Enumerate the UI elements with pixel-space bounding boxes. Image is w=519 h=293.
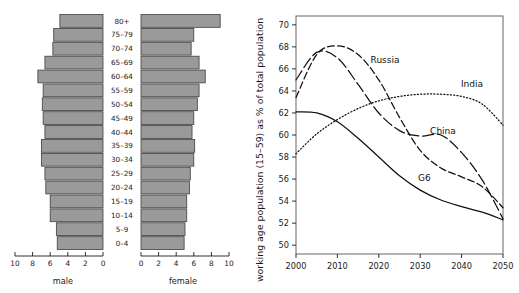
pyramid-age-group-label: 25–29 <box>111 169 133 178</box>
pyramid-age-group-label: 75–79 <box>111 30 133 39</box>
pyramid-bar-male <box>41 153 103 166</box>
working-age-line-chart-panel: working age population (15–59) as % of t… <box>250 0 519 293</box>
pyramid-age-group-label: 0–4 <box>116 239 129 248</box>
pyramid-bar-female <box>141 153 194 166</box>
x-tick-label: 2000 <box>286 261 307 271</box>
pyramid-age-group-label: 40–44 <box>111 128 133 137</box>
pyramid-bar-female <box>141 98 197 111</box>
pyramid-male-bars <box>38 15 103 250</box>
pyramid-female-tick-label: 8 <box>209 259 214 268</box>
y-tick-label: 52 <box>279 218 289 228</box>
pyramid-bar-female <box>141 181 189 194</box>
pyramid-bar-male <box>50 195 103 208</box>
pyramid-bar-male <box>56 223 103 236</box>
pyramid-bar-male <box>45 56 103 69</box>
pyramid-bar-male <box>43 112 103 125</box>
pyramid-age-group-label: 55–59 <box>111 86 133 95</box>
pyramid-male-tick-label: 10 <box>10 259 20 268</box>
pyramid-female-tick-label: 2 <box>156 259 161 268</box>
pyramid-bar-male <box>53 42 103 55</box>
pyramid-age-group-label: 20–24 <box>111 183 133 192</box>
series-line-china <box>296 51 503 219</box>
pyramid-bar-female <box>141 70 205 83</box>
pyramid-male-tick-label: 6 <box>48 259 53 268</box>
population-pyramid-svg: 0–45–910–1415–1920–2425–2930–3435–3940–4… <box>0 0 250 293</box>
population-pyramid-panel: 0–45–910–1415–1920–2425–2930–3435–3940–4… <box>0 0 250 293</box>
pyramid-bar-female <box>141 126 192 139</box>
pyramid-bar-female <box>141 139 195 152</box>
x-tick-label: 2010 <box>327 261 348 271</box>
pyramid-age-group-label: 30–34 <box>111 155 133 164</box>
y-tick-label: 56 <box>279 174 289 184</box>
pyramid-female-tick-label: 10 <box>224 259 234 268</box>
working-age-line-chart-svg: working age population (15–59) as % of t… <box>250 0 519 293</box>
pyramid-bar-male <box>45 126 103 139</box>
pyramid-age-group-label: 15–19 <box>111 197 133 206</box>
pyramid-age-group-label: 80+ <box>114 17 129 26</box>
pyramid-bar-female <box>141 56 199 69</box>
pyramid-bar-male <box>43 84 103 97</box>
pyramid-bar-male <box>57 237 103 250</box>
series-line-russia <box>296 46 503 208</box>
y-tick-label: 58 <box>279 152 289 162</box>
y-axis-title: working age population (15–59) as % of t… <box>254 18 265 282</box>
pyramid-male-axis-label: male <box>53 276 73 286</box>
pyramid-bar-female <box>141 237 184 250</box>
y-tick-label: 70 <box>279 20 289 30</box>
series-labels: RussiaChinaIndiaG6 <box>371 55 483 183</box>
pyramid-age-group-label: 35–39 <box>111 141 133 150</box>
pyramid-bar-male <box>54 28 103 41</box>
x-tick-label: 2040 <box>451 261 472 271</box>
y-axis-ticks: 5052545658606264666870 <box>279 20 296 250</box>
y-tick-label: 66 <box>279 64 289 74</box>
series-label-china: China <box>430 126 456 136</box>
pyramid-bar-male <box>50 209 103 222</box>
y-tick-label: 68 <box>279 42 289 52</box>
pyramid-age-group-label: 65–69 <box>111 58 133 67</box>
pyramid-female-tick-label: 6 <box>191 259 196 268</box>
pyramid-female-bars <box>141 15 220 250</box>
figure-container: 0–45–910–1415–1920–2425–2930–3435–3940–4… <box>0 0 519 293</box>
x-tick-label: 2030 <box>410 261 431 271</box>
pyramid-bar-female <box>141 209 187 222</box>
pyramid-male-tick-label: 0 <box>101 259 106 268</box>
pyramid-bar-male <box>46 181 103 194</box>
pyramid-age-group-label: 45–49 <box>111 114 133 123</box>
pyramid-bar-female <box>141 223 185 236</box>
pyramid-bar-male <box>60 15 103 28</box>
pyramid-age-group-label: 10–14 <box>111 211 133 220</box>
y-tick-label: 62 <box>279 108 289 118</box>
pyramid-bar-female <box>141 15 220 28</box>
series-label-g6: G6 <box>418 173 431 183</box>
series-line-india <box>296 94 503 154</box>
y-tick-label: 64 <box>279 86 289 96</box>
series-curves <box>296 46 503 220</box>
pyramid-bar-female <box>141 195 187 208</box>
y-tick-label: 60 <box>279 130 289 140</box>
series-label-russia: Russia <box>371 55 400 65</box>
pyramid-bar-male <box>38 70 103 83</box>
pyramid-bar-female <box>141 112 194 125</box>
pyramid-age-group-labels: 0–45–910–1415–1920–2425–2930–3435–3940–4… <box>111 17 133 248</box>
x-axis-ticks: 200020102020203020402050 <box>286 254 514 271</box>
pyramid-age-group-label: 60–64 <box>111 72 133 81</box>
x-tick-label: 2050 <box>493 261 514 271</box>
pyramid-bar-female <box>141 28 194 41</box>
pyramid-male-tick-label: 2 <box>83 259 88 268</box>
pyramid-bar-female <box>141 167 190 180</box>
pyramid-axes <box>15 252 229 256</box>
pyramid-bar-male <box>41 139 103 152</box>
x-tick-label: 2020 <box>368 261 389 271</box>
series-label-india: India <box>461 79 483 89</box>
pyramid-age-group-label: 50–54 <box>111 100 133 109</box>
pyramid-female-tick-label: 0 <box>139 259 144 268</box>
pyramid-age-group-label: 5–9 <box>116 225 129 234</box>
pyramid-female-axis-label: female <box>169 276 197 286</box>
y-tick-label: 50 <box>279 240 289 250</box>
y-tick-label: 54 <box>279 196 289 206</box>
pyramid-bar-male <box>42 98 103 111</box>
pyramid-male-tick-label: 8 <box>30 259 35 268</box>
pyramid-bar-male <box>45 167 103 180</box>
pyramid-tick-labels: 10864200246810 <box>10 259 234 268</box>
pyramid-male-tick-label: 4 <box>65 259 70 268</box>
